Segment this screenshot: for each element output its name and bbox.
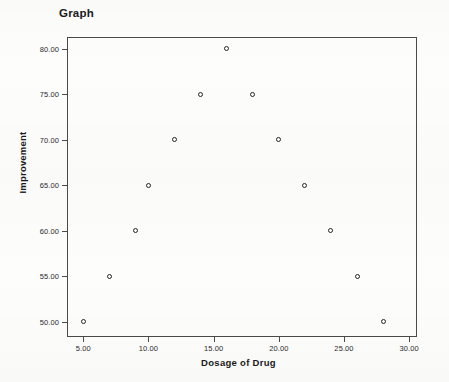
y-axis-tick-mark (62, 49, 67, 50)
y-axis-tick-mark (62, 140, 67, 141)
y-axis-tick-label: 65.00 (40, 181, 59, 190)
y-axis-tick-mark (62, 185, 67, 186)
chart-screenshot: Graph Improvement 50.0055.0060.0065.0070… (0, 0, 449, 382)
scatter-point (250, 92, 255, 97)
x-axis-tick-label: 5.00 (76, 344, 91, 353)
y-axis-tick-label: 60.00 (40, 226, 59, 235)
y-axis-tick-mark (62, 94, 67, 95)
scatter-point (224, 46, 229, 51)
plot-area: 50.0055.0060.0065.0070.0075.0080.005.001… (67, 37, 417, 337)
x-axis-tick-mark (409, 337, 410, 342)
scatter-point (355, 274, 360, 279)
scatter-point (107, 274, 112, 279)
x-axis-tick-mark (214, 337, 215, 342)
y-axis-tick-label: 50.00 (40, 317, 59, 326)
y-axis-tick-mark (62, 276, 67, 277)
x-axis-label-text: Dosage of Drug (201, 357, 276, 368)
x-axis-tick-mark (148, 337, 149, 342)
scatter-point (81, 319, 86, 324)
x-axis-tick-mark (344, 337, 345, 342)
y-axis-tick-mark (62, 322, 67, 323)
scatter-point (381, 319, 386, 324)
x-axis-tick-label: 30.00 (400, 344, 419, 353)
y-axis-tick-label: 80.00 (40, 44, 59, 53)
x-axis-tick-mark (83, 337, 84, 342)
x-axis-label: Dosage of Drug (0, 357, 449, 368)
scatter-point (198, 92, 203, 97)
y-axis-tick-label: 70.00 (40, 135, 59, 144)
x-axis-tick-label: 25.00 (334, 344, 353, 353)
y-axis-tick-mark (62, 231, 67, 232)
page-title: Graph (59, 7, 94, 19)
scatter-point (146, 183, 151, 188)
x-axis-tick-label: 20.00 (269, 344, 288, 353)
scatter-point (172, 137, 177, 142)
y-axis-tick-label: 55.00 (40, 272, 59, 281)
x-axis-tick-label: 10.00 (139, 344, 158, 353)
x-axis-tick-label: 15.00 (204, 344, 223, 353)
scatter-point (276, 137, 281, 142)
x-axis-tick-mark (279, 337, 280, 342)
scatter-point (302, 183, 307, 188)
scatter-point (133, 228, 138, 233)
y-axis-tick-label: 75.00 (40, 90, 59, 99)
y-axis-label: Improvement (17, 132, 28, 194)
scatter-point (328, 228, 333, 233)
